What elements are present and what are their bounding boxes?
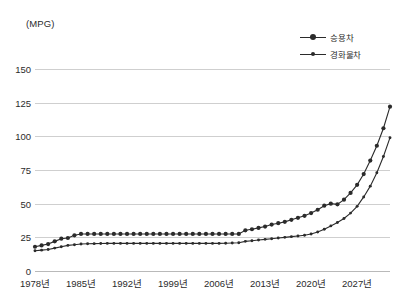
data-point xyxy=(355,183,359,187)
data-point xyxy=(59,237,63,241)
data-point xyxy=(316,208,320,212)
data-point xyxy=(33,245,37,249)
legend-marker-icon xyxy=(300,50,326,59)
data-point xyxy=(119,242,122,245)
data-point xyxy=(389,136,392,139)
data-point xyxy=(112,232,116,236)
data-point xyxy=(309,211,313,215)
data-point xyxy=(191,232,195,236)
data-point xyxy=(289,218,293,222)
data-point xyxy=(237,232,241,236)
data-point xyxy=(237,241,240,244)
legend-item[interactable]: 경화물차 xyxy=(300,48,361,60)
data-point xyxy=(381,126,385,130)
data-point xyxy=(73,243,76,246)
data-point xyxy=(105,232,109,236)
data-point xyxy=(297,235,300,238)
data-point xyxy=(388,105,392,109)
data-point xyxy=(264,238,267,241)
data-point xyxy=(138,232,142,236)
data-point xyxy=(185,242,188,245)
data-point xyxy=(178,232,182,236)
data-point xyxy=(244,240,247,243)
data-point xyxy=(184,232,188,236)
data-point xyxy=(86,242,89,245)
x-tick-label: 1999년 xyxy=(158,276,188,290)
data-point xyxy=(316,231,319,234)
data-point xyxy=(243,228,247,232)
legend-label: 경화물차 xyxy=(330,48,361,60)
series-승용차 xyxy=(33,105,392,249)
data-point xyxy=(53,247,56,250)
series-line xyxy=(35,107,390,247)
series-layer xyxy=(35,69,390,271)
y-tick-label: 125 xyxy=(1,97,31,108)
y-tick-label: 150 xyxy=(1,64,31,75)
data-point xyxy=(47,248,50,251)
x-tick-label: 2027년 xyxy=(342,276,372,290)
data-point xyxy=(349,212,352,215)
data-point xyxy=(92,232,96,236)
data-point xyxy=(263,224,267,228)
data-point xyxy=(250,239,253,242)
data-point xyxy=(218,242,221,245)
data-point xyxy=(368,158,372,162)
data-point xyxy=(217,232,221,236)
data-point xyxy=(99,242,102,245)
data-point xyxy=(125,232,129,236)
y-tick-label: 0 xyxy=(1,266,31,277)
data-point xyxy=(323,228,326,231)
y-tick-label: 100 xyxy=(1,131,31,142)
data-point xyxy=(302,214,306,218)
data-point xyxy=(178,242,181,245)
data-point xyxy=(290,235,293,238)
legend-item[interactable]: 승용차 xyxy=(300,31,361,43)
data-point xyxy=(348,191,352,195)
data-point xyxy=(343,217,346,220)
data-point xyxy=(46,242,50,246)
y-axis-unit-label: (MPG) xyxy=(26,18,54,29)
data-point xyxy=(145,242,148,245)
data-point xyxy=(85,232,89,236)
data-point xyxy=(80,243,83,246)
x-tick-label: 1978년 xyxy=(20,276,50,290)
data-point xyxy=(165,242,168,245)
data-point xyxy=(132,242,135,245)
data-point xyxy=(66,236,70,240)
data-point xyxy=(106,242,109,245)
chart-legend: 승용차경화물차 xyxy=(300,31,361,60)
data-point xyxy=(335,202,339,206)
data-point xyxy=(204,232,208,236)
data-point xyxy=(72,233,76,237)
data-point xyxy=(145,232,149,236)
y-tick-label: 50 xyxy=(1,198,31,209)
data-point xyxy=(382,155,385,158)
data-point xyxy=(171,232,175,236)
data-point xyxy=(257,239,260,242)
data-point xyxy=(40,249,43,252)
data-point xyxy=(126,242,129,245)
x-axis-tick-labels: 1978년1985년1992년1999년2006년2013년2020년2027년 xyxy=(35,276,390,294)
gridline-0 xyxy=(35,271,390,272)
data-point xyxy=(164,232,168,236)
data-point xyxy=(256,226,260,230)
data-point xyxy=(356,205,359,208)
data-point xyxy=(336,221,339,224)
legend-label: 승용차 xyxy=(330,31,353,43)
plot-area xyxy=(35,69,390,271)
data-point xyxy=(210,232,214,236)
data-point xyxy=(303,234,306,237)
data-point xyxy=(139,242,142,245)
data-point xyxy=(172,242,175,245)
data-point xyxy=(369,185,372,188)
data-point xyxy=(211,242,214,245)
data-point xyxy=(53,239,57,243)
x-tick-label: 2020년 xyxy=(296,276,326,290)
data-point xyxy=(322,204,326,208)
data-point xyxy=(118,232,122,236)
data-point xyxy=(362,195,365,198)
data-point xyxy=(270,237,273,240)
data-point xyxy=(66,244,69,247)
x-tick-label: 1985년 xyxy=(66,276,96,290)
data-point xyxy=(204,242,207,245)
